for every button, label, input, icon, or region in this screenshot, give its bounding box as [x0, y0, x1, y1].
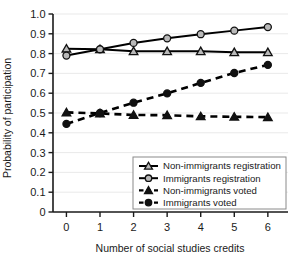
y-axis-tick-label: 0.5	[30, 107, 45, 119]
y-axis-tick-label: 0.7	[30, 67, 45, 79]
data-point-marker	[130, 39, 137, 46]
y-axis-tick-label: 0.8	[30, 48, 45, 60]
y-axis-tick-label: 0.1	[30, 186, 45, 198]
legend-label: Immigrants registration	[163, 173, 261, 184]
y-axis-tick-label: 0.3	[30, 147, 45, 159]
y-axis-tick-labels: 00.10.20.30.40.50.60.70.80.91.0	[30, 8, 45, 218]
x-axis-tick-label: 0	[63, 221, 69, 233]
data-point-marker	[231, 27, 238, 34]
data-point-marker	[164, 35, 171, 42]
data-point-marker	[97, 46, 104, 53]
data-point-marker	[145, 175, 151, 181]
data-point-marker	[130, 99, 137, 106]
legend-label: Non-immigrants voted	[163, 185, 257, 196]
data-point-marker	[197, 31, 204, 38]
legend-label: Non-immigrants registration	[163, 160, 281, 171]
y-axis-tick-label: 0.2	[30, 166, 45, 178]
data-point-marker	[63, 52, 70, 59]
data-point-marker	[197, 79, 204, 86]
x-axis-title: Number of social studies credits	[96, 242, 245, 254]
legend: Non-immigrants registrationImmigrants re…	[133, 157, 286, 209]
chart-canvas: 00.10.20.30.40.50.60.70.80.91.0 0123456 …	[0, 0, 297, 259]
x-axis-tick-label: 5	[231, 221, 237, 233]
y-axis-tick-label: 0	[39, 206, 45, 218]
x-axis-tick-label: 4	[198, 221, 204, 233]
data-point-marker	[231, 70, 238, 77]
data-point-marker	[264, 24, 271, 31]
x-axis-tick-label: 1	[97, 221, 103, 233]
x-axis-tick-label: 6	[265, 221, 271, 233]
data-point-marker	[145, 199, 151, 205]
data-point-marker	[264, 61, 271, 68]
chart-figure: 00.10.20.30.40.50.60.70.80.91.0 0123456 …	[0, 0, 297, 259]
x-axis-tick-label: 3	[164, 221, 170, 233]
x-axis-tick-label: 2	[131, 221, 137, 233]
y-axis-tick-label: 0.9	[30, 28, 45, 40]
y-axis-tick-label: 1.0	[30, 8, 45, 20]
data-point-marker	[97, 110, 104, 117]
y-axis-title: Probability of participation	[1, 58, 13, 178]
y-axis-tick-label: 0.6	[30, 87, 45, 99]
data-point-marker	[164, 90, 171, 97]
y-axis-tick-label: 0.4	[30, 127, 45, 139]
data-point-marker	[63, 120, 70, 127]
legend-label: Immigrants voted	[163, 197, 237, 208]
